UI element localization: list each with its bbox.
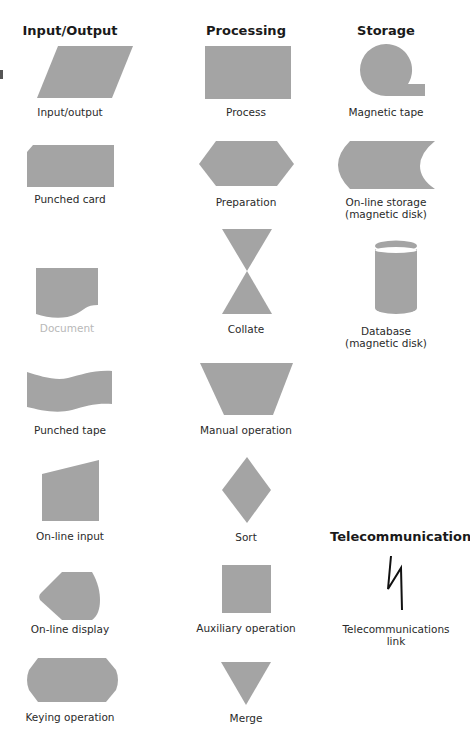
preparation-symbol (199, 141, 294, 186)
merge-symbol (221, 662, 271, 705)
label-magnetic-tape: Magnetic tape (336, 106, 436, 118)
input-output-symbol (37, 46, 133, 98)
manual-operation-symbol (200, 363, 293, 415)
label-database: Database (magnetic disk) (336, 325, 436, 349)
label-input-output: Input/output (20, 106, 120, 118)
collate-symbol-bottom (222, 271, 272, 314)
label-telecommunications-link: Telecommunications link (336, 623, 456, 647)
label-telecom-line2: link (336, 635, 456, 647)
process-symbol (205, 46, 291, 99)
label-punched-card: Punched card (20, 193, 120, 205)
punched-card-symbol (27, 145, 114, 187)
label-online-storage-line1: On-line storage (336, 196, 436, 208)
label-collate: Collate (196, 323, 296, 335)
label-database-line1: Database (336, 325, 436, 337)
label-telecom-line1: Telecommunications (336, 623, 456, 635)
collate-symbol (222, 229, 272, 271)
label-online-storage: On-line storage (magnetic disk) (336, 196, 436, 220)
label-online-input: On-line input (20, 530, 120, 542)
database-symbol-rim (375, 247, 417, 253)
label-keying-operation: Keying operation (20, 711, 120, 723)
label-database-line2: (magnetic disk) (336, 337, 436, 349)
sort-symbol (222, 457, 271, 523)
auxiliary-operation-symbol (222, 565, 271, 613)
label-online-display: On-line display (20, 623, 120, 635)
label-merge: Merge (196, 712, 296, 724)
label-online-storage-line2: (magnetic disk) (336, 208, 436, 220)
label-process: Process (196, 106, 296, 118)
keying-operation-symbol (27, 658, 118, 702)
punched-tape-symbol (27, 371, 112, 412)
online-input-symbol (42, 460, 99, 521)
online-display-symbol (39, 572, 100, 620)
label-auxiliary-operation: Auxiliary operation (186, 622, 306, 634)
label-preparation: Preparation (196, 196, 296, 208)
document-symbol (36, 268, 98, 318)
online-storage-symbol (338, 141, 435, 189)
database-symbol (375, 249, 417, 314)
label-punched-tape: Punched tape (20, 424, 120, 436)
magnetic-tape-symbol (360, 44, 425, 96)
label-sort: Sort (196, 531, 296, 543)
telecommunications-link-symbol (388, 556, 402, 610)
label-document: Document (17, 322, 117, 334)
label-manual-operation: Manual operation (186, 424, 306, 436)
